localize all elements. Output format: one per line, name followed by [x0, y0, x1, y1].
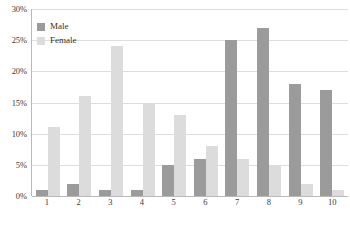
bar-male-2[interactable]: [67, 184, 79, 196]
y-tick-label: 5%: [16, 161, 27, 170]
y-tick-label: 15%: [12, 98, 27, 107]
bar-group: [222, 9, 254, 196]
bar-male-6[interactable]: [194, 159, 206, 196]
y-axis: 0%5%10%15%20%25%30%: [0, 0, 30, 243]
bar-male-8[interactable]: [257, 28, 269, 196]
bar-male-3[interactable]: [99, 190, 111, 196]
bar-group: [285, 9, 317, 196]
legend-item-male[interactable]: Male: [37, 20, 77, 33]
y-tick-label: 25%: [12, 36, 27, 45]
y-tick-label: 0%: [16, 192, 27, 201]
bar-female-7[interactable]: [237, 159, 249, 196]
y-tick-label: 20%: [12, 67, 27, 76]
bar-male-7[interactable]: [225, 40, 237, 196]
bar-female-8[interactable]: [269, 165, 281, 196]
bar-male-10[interactable]: [320, 90, 332, 196]
bar-group: [158, 9, 190, 196]
x-tick-label: 8: [253, 197, 285, 217]
bar-female-6[interactable]: [206, 146, 218, 196]
bar-group: [95, 9, 127, 196]
x-tick-label: 4: [126, 197, 158, 217]
x-tick-label: 9: [285, 197, 317, 217]
plot-area: [31, 9, 348, 196]
legend-swatch-icon: [37, 37, 45, 45]
legend-label: Male: [50, 22, 69, 31]
bar-group: [127, 9, 159, 196]
bar-female-4[interactable]: [143, 103, 155, 197]
bar-male-9[interactable]: [289, 84, 301, 196]
y-tick-label: 30%: [12, 5, 27, 14]
bar-male-1[interactable]: [36, 190, 48, 196]
legend-label: Female: [50, 36, 77, 45]
bar-female-10[interactable]: [332, 190, 344, 196]
x-tick-label: 10: [316, 197, 348, 217]
bar-female-1[interactable]: [48, 127, 60, 196]
x-tick-label: 1: [31, 197, 63, 217]
bar-female-2[interactable]: [79, 96, 91, 196]
bar-group: [253, 9, 285, 196]
x-tick-label: 3: [94, 197, 126, 217]
x-axis: 12345678910: [31, 197, 348, 217]
bar-male-5[interactable]: [162, 165, 174, 196]
legend-swatch-icon: [37, 23, 45, 31]
bar-group: [190, 9, 222, 196]
x-tick-label: 5: [158, 197, 190, 217]
x-tick-label: 2: [63, 197, 95, 217]
bar-male-4[interactable]: [131, 190, 143, 196]
x-tick-label: 7: [221, 197, 253, 217]
bar-female-9[interactable]: [301, 184, 313, 196]
bar-chart: 0%5%10%15%20%25%30% 12345678910 MaleFema…: [0, 0, 350, 243]
bar-group: [316, 9, 348, 196]
bar-female-5[interactable]: [174, 115, 186, 196]
bar-female-3[interactable]: [111, 46, 123, 196]
y-tick-label: 10%: [12, 129, 27, 138]
x-tick-label: 6: [190, 197, 222, 217]
legend-item-female[interactable]: Female: [37, 34, 77, 47]
bars-layer: [32, 9, 348, 196]
legend: MaleFemale: [37, 20, 77, 48]
